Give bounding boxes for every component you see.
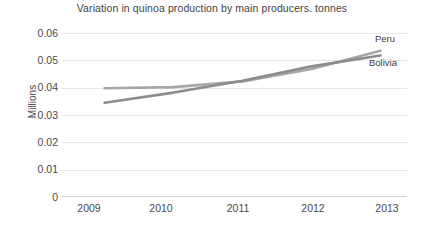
- y-tick-label: 0.04: [14, 82, 58, 92]
- x-tick-label: 2013: [352, 202, 422, 214]
- y-tick-label: 0.01: [14, 164, 58, 174]
- y-tick-label: 0.06: [14, 28, 58, 38]
- y-axis-tick-labels: 0.06 0.05 0.04 0.03 0.02 0.01 0: [14, 0, 58, 230]
- y-tick-label: 0.05: [14, 55, 58, 65]
- y-tick-label: 0.02: [14, 137, 58, 147]
- line-series-bolivia: [105, 55, 381, 102]
- line-series-peru: [105, 51, 381, 88]
- series-label-peru: Peru: [375, 33, 395, 44]
- x-tick-label: 2011: [203, 202, 273, 214]
- x-tick-label: 2009: [54, 202, 124, 214]
- x-tick-label: 2012: [278, 202, 348, 214]
- series-label-bolivia: Bolivia: [369, 57, 397, 68]
- y-tick-label: 0.03: [14, 110, 58, 120]
- series-lines: [62, 33, 407, 197]
- x-tick-label: 2010: [126, 202, 196, 214]
- chart-title: Variation in quinoa production by main p…: [0, 2, 424, 14]
- plot-area: [62, 33, 407, 197]
- y-tick-label: 0: [14, 192, 58, 202]
- chart-container: Variation in quinoa production by main p…: [0, 0, 424, 230]
